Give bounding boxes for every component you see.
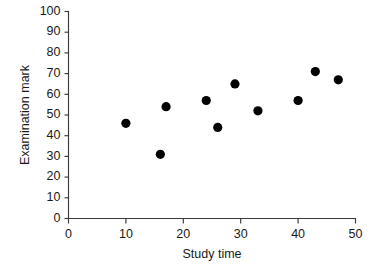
plot-canvas: 0102030405060708090100 Examination mark … — [0, 0, 381, 272]
data-point — [334, 75, 343, 84]
y-tick-label: 30 — [47, 149, 61, 163]
y-axis-title: Examination mark — [18, 64, 32, 165]
data-point — [156, 150, 165, 159]
y-tick-label: 0 — [54, 211, 61, 225]
y-tick-label: 50 — [47, 107, 61, 121]
x-tick-label: 50 — [349, 227, 363, 241]
x-tick-label: 20 — [176, 227, 190, 241]
data-point — [121, 119, 130, 128]
data-point — [253, 106, 262, 115]
scatter-plot-figure: 0102030405060708090100 Examination mark … — [0, 0, 381, 272]
y-tick-label: 90 — [47, 24, 61, 38]
y-tick-label: 10 — [47, 190, 61, 204]
data-point — [294, 96, 303, 105]
data-point — [202, 96, 211, 105]
x-axis-title: Study time — [182, 247, 241, 261]
y-tick-label: 40 — [47, 128, 61, 142]
y-tick-label: 70 — [47, 66, 61, 80]
y-tick-label: 20 — [47, 169, 61, 183]
data-point — [230, 79, 239, 88]
x-tick-label: 10 — [119, 227, 133, 241]
y-tick-label: 80 — [47, 45, 61, 59]
y-tick-label: 60 — [47, 87, 61, 101]
y-tick-label: 100 — [40, 4, 61, 18]
data-point — [161, 102, 170, 111]
x-tick-label: 30 — [234, 227, 248, 241]
data-point — [213, 123, 222, 132]
x-tick-label: 0 — [65, 227, 72, 241]
x-tick-label: 40 — [291, 227, 305, 241]
data-point — [311, 67, 320, 76]
